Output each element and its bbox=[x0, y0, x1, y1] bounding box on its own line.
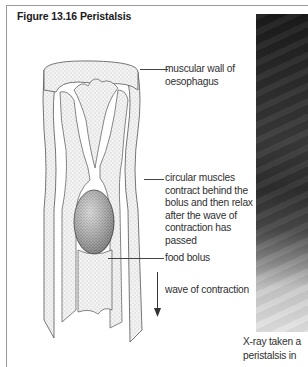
caption-line: peristalsis in bbox=[243, 349, 301, 363]
label-line: passed bbox=[165, 235, 253, 248]
label-line: muscular wall of bbox=[165, 63, 235, 76]
frame-border-top bbox=[6, 5, 308, 6]
wave-arrow-head-icon bbox=[154, 308, 161, 317]
wave-arrow-shaft bbox=[157, 272, 158, 312]
xray-caption: X-ray taken a peristalsis in bbox=[243, 335, 301, 363]
label-line: contraction has bbox=[165, 222, 253, 235]
figure-title: Figure 13.16 Peristalsis bbox=[17, 10, 131, 22]
leader-circular-muscles bbox=[144, 179, 164, 180]
leader-food-bolus bbox=[108, 258, 164, 259]
label-circular-muscles: circular muscles contract behind the bol… bbox=[165, 172, 253, 247]
caption-line: X-ray taken a bbox=[243, 335, 301, 349]
label-wave-of-contraction: wave of contraction bbox=[165, 284, 249, 297]
label-food-bolus: food bolus bbox=[165, 252, 210, 265]
oesophagus-diagram bbox=[38, 60, 150, 350]
label-muscular-wall: muscular wall of oesophagus bbox=[165, 63, 235, 88]
frame-border-left bbox=[6, 5, 7, 367]
label-line: contract behind the bbox=[165, 185, 253, 198]
label-line: oesophagus bbox=[165, 76, 235, 89]
leader-muscular-wall bbox=[140, 69, 168, 70]
label-line: bolus and then relax bbox=[165, 197, 253, 210]
label-line: after the wave of bbox=[165, 210, 253, 223]
label-line: circular muscles bbox=[165, 172, 253, 185]
xray-image bbox=[256, 14, 308, 332]
